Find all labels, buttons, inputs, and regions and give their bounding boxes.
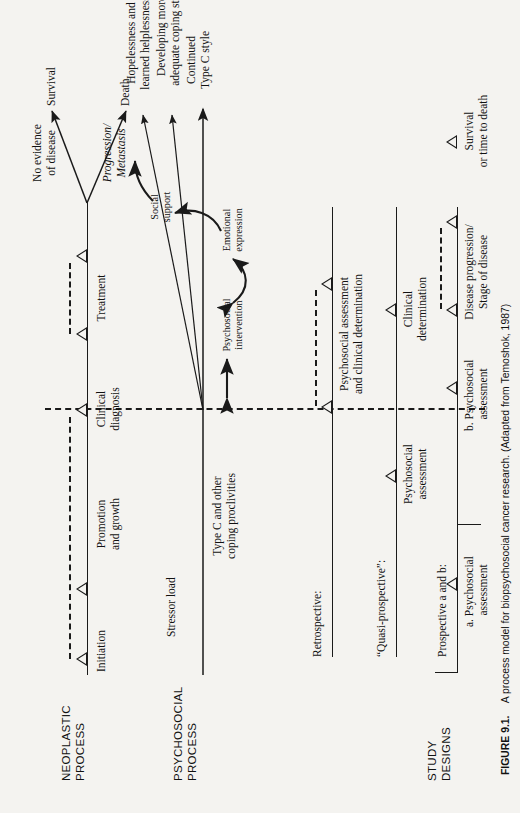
psychosocial-antecedent-stressor-load: Stressor load bbox=[165, 577, 179, 637]
design-line-prospective bbox=[457, 207, 458, 657]
psychosocial-outcome-adequate-coping: Developing more adequate coping style bbox=[155, 0, 182, 107]
figure-caption-text: A process model for biopsychosocial canc… bbox=[500, 304, 511, 703]
psychosocial-mediator-intervention: Psychosocial intervention bbox=[221, 293, 245, 357]
quasi-marker-clinical-determination bbox=[385, 303, 396, 317]
neoplastic-stage-promotion: Promotion and growth bbox=[95, 469, 122, 579]
neoplastic-outcome-survival: Survival bbox=[45, 67, 59, 106]
retrospective-marker-start bbox=[321, 400, 332, 414]
prospective-measure-b: b. Psychosocial assessment bbox=[463, 359, 490, 431]
study-designs-bracket-stem bbox=[457, 523, 481, 524]
neoplastic-span-promotion bbox=[69, 417, 71, 659]
prospective-marker-survival bbox=[446, 135, 457, 149]
retrospective-marker-end bbox=[321, 277, 332, 291]
neoplastic-marker-initiation-end bbox=[76, 582, 87, 596]
quasi-marker-psychosocial-assessment bbox=[385, 469, 396, 483]
prospective-marker-a bbox=[446, 577, 457, 591]
psychosocial-outcome-hopelessness: Hopelessness and learned helplessness bbox=[125, 0, 152, 107]
psychosocial-antecedent-type-c: Type C and other coping proclivities bbox=[211, 441, 238, 591]
design-name-quasi-prospective: “Quasi-prospective”: bbox=[375, 559, 389, 656]
prospective-measure-survival: Survival or time to death bbox=[463, 79, 490, 183]
design-line-retrospective bbox=[332, 207, 333, 657]
diagram-canvas: NEOPLASTIC PROCESS PSYCHOSOCIAL PROCESS … bbox=[25, 27, 495, 787]
prospective-measure-a: a. Psychosocial assessment bbox=[463, 556, 490, 627]
neoplastic-marker-treatment-start bbox=[76, 327, 87, 341]
retrospective-span bbox=[315, 290, 317, 406]
neoplastic-stage-treatment: Treatment bbox=[95, 259, 109, 337]
quasi-measure-1: Psychosocial assessment bbox=[402, 429, 429, 519]
figure-number: FIGURE 9.1. bbox=[500, 716, 511, 775]
prospective-marker-progression-start bbox=[446, 303, 457, 317]
neoplastic-marker-initiation-start bbox=[76, 652, 87, 666]
study-designs-bracket-left-tick bbox=[435, 671, 458, 672]
prospective-span-progression bbox=[440, 228, 442, 309]
quasi-measure-2: Clinical determination bbox=[402, 263, 429, 355]
neoplastic-outcome-progression: Progression/ Metastasis bbox=[101, 109, 128, 197]
prospective-measure-progression: Disease progression/ Stage of disease bbox=[463, 209, 490, 335]
prospective-marker-b bbox=[446, 381, 457, 395]
design-name-retrospective: Retrospective: bbox=[311, 590, 325, 656]
design-line-quasi-prospective bbox=[396, 207, 397, 657]
neoplastic-stage-clinical-diagnosis: Clinical diagnosis bbox=[95, 371, 122, 447]
psychosocial-outcome-continued-type-c: Continued Type C style bbox=[185, 17, 212, 103]
neoplastic-marker-treatment-end bbox=[76, 249, 87, 263]
neoplastic-marker-clinical-diagnosis bbox=[76, 403, 87, 417]
rotated-figure-stage: NEOPLASTIC PROCESS PSYCHOSOCIAL PROCESS … bbox=[25, 27, 495, 787]
psychosocial-mediator-emotional-expression: Emotional expression bbox=[221, 201, 245, 259]
neoplastic-span-treatment bbox=[69, 263, 71, 334]
neoplastic-outcome-no-evidence: No evidence of disease bbox=[31, 111, 58, 195]
psychosocial-mediator-social-support: Social support bbox=[149, 183, 173, 231]
retrospective-measure-1: Psychosocial assessment and clinical det… bbox=[338, 249, 365, 419]
figure-page: NEOPLASTIC PROCESS PSYCHOSOCIAL PROCESS … bbox=[0, 0, 520, 813]
prospective-marker-progression-end bbox=[446, 215, 457, 229]
neoplastic-stage-initiation: Initiation bbox=[95, 611, 109, 691]
figure-caption: FIGURE 9.1. A process model for biopsych… bbox=[500, 304, 511, 775]
